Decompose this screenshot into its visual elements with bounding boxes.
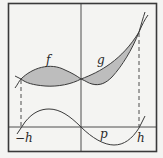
diagram-figure: f g p −h h xyxy=(0,0,163,158)
label-h: h xyxy=(137,131,145,145)
label-neg-h: −h xyxy=(15,131,33,145)
label-g: g xyxy=(97,53,105,67)
label-p: p xyxy=(100,127,108,141)
